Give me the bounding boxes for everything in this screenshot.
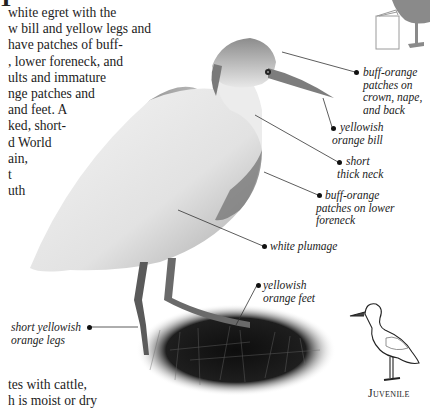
body-line: ked, short- <box>8 118 151 134</box>
bullet-icon <box>262 244 267 249</box>
bullet-icon <box>256 283 261 288</box>
juvenile-bird-outline <box>350 304 419 380</box>
annotation-crown: buff-orange patches on crown, nape, and … <box>363 66 422 116</box>
annotation-line: short <box>337 155 383 168</box>
body-line: nge patches and <box>8 86 151 102</box>
annotation-line: foreneck <box>316 214 395 227</box>
annotation-line: orange feet <box>263 292 315 305</box>
annotation-line: patches on lower <box>316 202 395 215</box>
habitat-text: tes with cattle, h is moist or dry <box>8 377 97 409</box>
annotation-line: orange bill <box>332 134 383 147</box>
annotation-plumage: white plumage <box>270 240 337 253</box>
body-line: h is moist or dry <box>8 393 97 409</box>
body-line: tes with cattle, <box>8 377 97 393</box>
annotation-line: white plumage <box>270 240 337 253</box>
body-line: uth <box>8 183 151 199</box>
annotation-bill: yellowish orange bill <box>332 121 383 146</box>
book-icon <box>376 10 399 49</box>
body-line: ain, <box>8 151 151 167</box>
bullet-icon <box>87 325 92 330</box>
juvenile-label: Juvenile <box>368 386 410 401</box>
annotation-feet: yellowish orange feet <box>263 279 315 304</box>
body-line: have patches of buff- <box>8 37 151 53</box>
annotation-neck: short thick neck <box>337 155 383 180</box>
annotation-line: buff-orange <box>363 66 422 79</box>
annotation-line: thick neck <box>337 168 383 181</box>
body-line: ults and immature <box>8 70 151 86</box>
description-text: white egret with the w bill and yellow l… <box>8 5 151 199</box>
annotation-line: yellowish <box>263 279 315 292</box>
annotation-line: orange legs <box>11 334 81 347</box>
body-line: white egret with the <box>8 5 151 21</box>
body-line: , lower foreneck, and <box>8 54 151 70</box>
annotation-line: yellowish <box>332 121 383 134</box>
body-line: d World <box>8 135 151 151</box>
body-line: w bill and yellow legs and <box>8 21 151 37</box>
annotation-foreneck: buff-orange patches on lower foreneck <box>316 189 395 227</box>
body-line: t <box>8 167 151 183</box>
annotation-line: and back <box>363 104 422 117</box>
annotation-line: patches on <box>363 79 422 92</box>
annotation-legs: short yellowish orange legs <box>11 321 81 346</box>
annotation-line: buff-orange <box>316 189 395 202</box>
bullet-icon <box>354 70 359 75</box>
bird-silhouette-icon <box>392 0 430 48</box>
annotation-line: short yellowish <box>11 321 81 334</box>
annotation-line: crown, nape, <box>363 91 422 104</box>
grass-patch <box>136 304 336 396</box>
body-line: and feet. A <box>8 102 151 118</box>
